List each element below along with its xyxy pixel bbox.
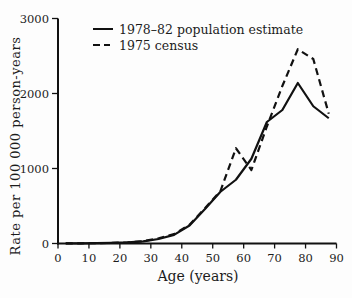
legend-label: 1975 census <box>119 38 198 53</box>
y-tick-label: 1000 <box>20 162 49 176</box>
legend-item-population-estimate: 1978–82 population estimate <box>93 22 303 36</box>
legend: 1978–82 population estimate 1975 census <box>93 22 303 52</box>
x-tick-label: 70 <box>267 251 282 265</box>
legend-label: 1978–82 population estimate <box>119 22 303 37</box>
series-line-dashed <box>66 49 329 243</box>
x-tick-label: 30 <box>144 251 159 265</box>
x-tick-label: 50 <box>205 251 220 265</box>
y-tick-label: 0 <box>42 237 49 251</box>
y-axis-label: Rate per 100 000 person-years <box>8 37 23 256</box>
x-tick-label: 40 <box>174 251 189 265</box>
x-tick-label: 60 <box>236 251 251 265</box>
y-tick-label: 2000 <box>20 87 49 101</box>
x-tick-label: 90 <box>329 251 344 265</box>
series-line-solid <box>66 83 329 243</box>
x-tick-label: 0 <box>54 251 61 265</box>
chart: 01020304050607080900100020003000 Rate pe… <box>0 0 352 298</box>
y-tick-label: 3000 <box>20 12 49 26</box>
x-axis-label: Age (years) <box>157 268 238 284</box>
x-tick-label: 80 <box>298 251 313 265</box>
x-tick-label: 20 <box>113 251 128 265</box>
dashed-line-marker <box>93 44 113 46</box>
solid-line-marker <box>93 28 113 30</box>
x-tick-label: 10 <box>82 251 97 265</box>
legend-item-1975-census: 1975 census <box>93 38 303 52</box>
